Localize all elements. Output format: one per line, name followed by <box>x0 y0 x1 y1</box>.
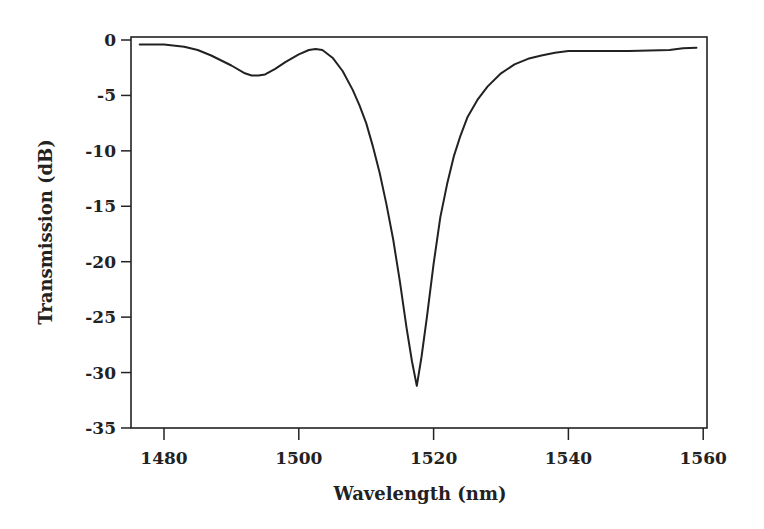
y-tick-label: -15 <box>85 196 116 216</box>
y-tick-label: -20 <box>85 252 116 272</box>
y-tick-label: -30 <box>85 363 116 383</box>
transmission-chart: 0-5-10-15-20-25-30-35 148015001520154015… <box>0 0 764 529</box>
y-tick-label: 0 <box>104 30 116 50</box>
y-tick-label: -10 <box>85 141 116 161</box>
x-tick-label: 1480 <box>140 448 187 468</box>
transmission-curve <box>140 44 697 386</box>
y-tick-label: -5 <box>97 85 116 105</box>
y-axis-title: Transmission (dB) <box>35 139 56 325</box>
x-tick-label: 1520 <box>410 448 457 468</box>
y-tick-label: -35 <box>85 418 116 438</box>
x-axis-title: Wavelength (nm) <box>332 483 506 504</box>
y-tick-label: -25 <box>85 307 116 327</box>
y-axis: 0-5-10-15-20-25-30-35 <box>85 30 131 438</box>
x-tick-label: 1560 <box>680 448 727 468</box>
x-tick-label: 1500 <box>275 448 322 468</box>
x-axis: 14801500152015401560 <box>140 428 727 468</box>
x-tick-label: 1540 <box>545 448 592 468</box>
